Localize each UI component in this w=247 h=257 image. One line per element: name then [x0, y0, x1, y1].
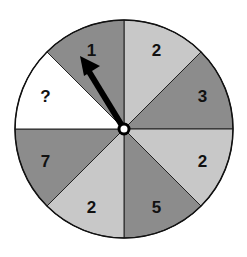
sector-label: ? [40, 87, 50, 106]
spinner-hub [119, 124, 129, 134]
sector-label: 1 [87, 41, 96, 60]
sector-label: 2 [87, 198, 96, 217]
sector-label: 3 [198, 87, 207, 106]
spinner: 232527?1 [0, 0, 247, 257]
sector-label: 2 [198, 152, 207, 171]
sector-label: 2 [152, 41, 161, 60]
sector-label: 7 [41, 152, 50, 171]
sector-label: 5 [152, 198, 161, 217]
